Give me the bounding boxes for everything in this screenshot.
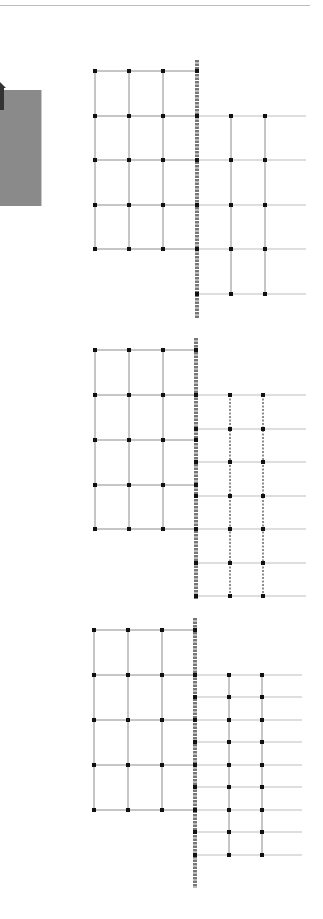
grid-node <box>127 348 131 352</box>
grid-node <box>193 830 197 834</box>
grid-node <box>227 853 231 857</box>
grid-node <box>263 292 267 296</box>
grid-node <box>261 393 265 397</box>
grid-node <box>127 158 131 162</box>
grid-node <box>229 158 233 162</box>
grid-node <box>160 628 164 632</box>
grid-node <box>228 594 232 598</box>
grid-node <box>260 763 264 767</box>
grid-node <box>227 673 231 677</box>
grid-node <box>127 247 131 251</box>
grid-node <box>228 393 232 397</box>
grid-node <box>160 763 164 767</box>
grid-node <box>228 561 232 565</box>
grid-node <box>93 114 97 118</box>
grid-node <box>93 158 97 162</box>
grid-node <box>161 348 165 352</box>
grid-node <box>193 853 197 857</box>
grid-node <box>193 695 197 699</box>
grid-node <box>93 393 97 397</box>
grid-node <box>92 763 96 767</box>
grid-node <box>93 438 97 442</box>
grid-node <box>127 483 131 487</box>
grid-node <box>229 203 233 207</box>
grid-node <box>263 247 267 251</box>
grid-node <box>228 527 232 531</box>
grid-node <box>126 808 130 812</box>
grid-node <box>127 393 131 397</box>
grid-node <box>260 673 264 677</box>
grid-node <box>126 763 130 767</box>
grid-node <box>229 292 233 296</box>
grid-node <box>193 673 197 677</box>
grid-node <box>92 718 96 722</box>
grid-node <box>227 830 231 834</box>
grid-node <box>161 393 165 397</box>
grid-node <box>195 158 199 162</box>
grid-node <box>161 114 165 118</box>
grid-node <box>92 628 96 632</box>
grid-node <box>260 808 264 812</box>
grid-node <box>260 718 264 722</box>
grid-node <box>92 673 96 677</box>
grid-node <box>126 718 130 722</box>
grid-node <box>261 427 265 431</box>
grid-node <box>260 830 264 834</box>
grid-node <box>194 527 198 531</box>
grid-node <box>194 427 198 431</box>
grid-node <box>160 673 164 677</box>
grid-node <box>161 247 165 251</box>
grid-node <box>194 438 198 442</box>
grid-node <box>161 483 165 487</box>
grid-node <box>127 203 131 207</box>
grid-node <box>227 785 231 789</box>
grid-node <box>194 483 198 487</box>
grid-node <box>227 763 231 767</box>
grid-node <box>161 158 165 162</box>
grid-node <box>93 203 97 207</box>
grid-node <box>193 785 197 789</box>
grid-node <box>193 740 197 744</box>
grid-node <box>260 695 264 699</box>
grid-node <box>194 460 198 464</box>
grid-node <box>127 438 131 442</box>
grid-node <box>261 594 265 598</box>
grid-node <box>93 348 97 352</box>
grid-node <box>93 483 97 487</box>
grid-node <box>92 808 96 812</box>
grid-node <box>260 853 264 857</box>
grid-node <box>127 114 131 118</box>
grid-node <box>263 114 267 118</box>
grid-node <box>161 438 165 442</box>
grid-node <box>160 808 164 812</box>
grid-node <box>161 69 165 73</box>
grid-node <box>161 203 165 207</box>
grid-node <box>194 561 198 565</box>
grid-node <box>195 203 199 207</box>
grid-node <box>193 763 197 767</box>
grid-node <box>227 808 231 812</box>
grid-node <box>194 348 198 352</box>
grid-node <box>195 292 199 296</box>
grid-node <box>193 718 197 722</box>
grid-node <box>229 114 233 118</box>
grid-node <box>228 427 232 431</box>
grid-node <box>261 460 265 464</box>
grid-node <box>93 69 97 73</box>
grid-node <box>261 527 265 531</box>
grid-node <box>260 740 264 744</box>
grid-node <box>227 718 231 722</box>
grid-node <box>126 673 130 677</box>
grid-node <box>193 808 197 812</box>
grid-node <box>260 785 264 789</box>
grid-node <box>195 69 199 73</box>
grid-node <box>195 114 199 118</box>
grid-node <box>228 494 232 498</box>
grid-node <box>127 527 131 531</box>
grid-node <box>261 494 265 498</box>
grid-node <box>194 494 198 498</box>
grid-node <box>229 247 233 251</box>
grid-node <box>261 561 265 565</box>
grid-node <box>263 158 267 162</box>
grid-node <box>263 203 267 207</box>
